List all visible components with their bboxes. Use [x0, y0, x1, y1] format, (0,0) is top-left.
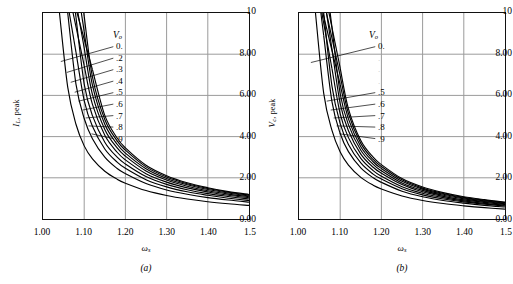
plot-area-a [42, 12, 250, 220]
panel-a: IL, peak 10 8.00 6.00 4.00 2.00 0.00 1.0… [0, 0, 256, 284]
x-axis-label-b: ωs [372, 243, 432, 253]
leader-line-b-7 [337, 126, 376, 127]
legend-value-b-7: .8 [378, 123, 385, 132]
x-tick-b-1: 1.10 [322, 228, 358, 238]
x-tick-a-3: 1.30 [149, 228, 185, 238]
legend-value-b-5: .6 [378, 100, 385, 109]
legend-title-b: Vo [369, 30, 378, 40]
legend-value-a-6: .7 [116, 112, 123, 121]
x-tick-a-1: 1.10 [66, 228, 102, 238]
y-tick-b-3: 4.00 [474, 132, 512, 142]
curve-b-7-top [326, 13, 340, 76]
figure-two-panel-resonant-converter-plots: IL, peak 10 8.00 6.00 4.00 2.00 0.00 1.0… [0, 0, 513, 284]
y-tick-b-5: 0.00 [474, 215, 512, 225]
legend-value-a-2: .3 [116, 65, 123, 74]
plot-area-b [298, 12, 506, 220]
legend-value-a-5: .6 [116, 100, 123, 109]
caption-b: (b) [372, 263, 432, 273]
legend-value-a-8: .9 [116, 135, 123, 144]
y-tick-a-3: 4.00 [218, 132, 256, 142]
plot-svg-b [299, 13, 505, 219]
x-tick-a-4: 1.40 [190, 228, 226, 238]
legend-value-b-6: .7 [378, 112, 385, 121]
legend-value-a-3: .4 [116, 77, 123, 86]
caption-a: (a) [116, 263, 176, 273]
x-tick-b-2: 1.20 [363, 228, 399, 238]
legend-value-a-0: 0. [116, 42, 123, 51]
legend-value-a-4: .5 [116, 88, 123, 97]
x-tick-a-2: 1.20 [107, 228, 143, 238]
legend-title-a: Vo [113, 30, 122, 40]
x-tick-a-0: 1.00 [24, 228, 60, 238]
y-tick-b-4: 2.00 [474, 173, 512, 183]
y-tick-b-2: 6.00 [474, 90, 512, 100]
x-axis-label-a: ωs [116, 243, 176, 253]
legend-value-a-7: .8 [116, 123, 123, 132]
legend-value-b-2: . [378, 65, 380, 74]
y-tick-a-2: 6.00 [218, 90, 256, 100]
leader-line-b-5 [331, 104, 376, 110]
y-tick-a-1: 8.00 [218, 49, 256, 59]
y-tick-a-4: 2.00 [218, 173, 256, 183]
y-tick-a-0: 10 [218, 7, 256, 17]
panel-b: Vc, peak 10 8.00 6.00 4.00 2.00 0.00 1.0… [256, 0, 512, 284]
x-tick-b-3: 1.30 [405, 228, 441, 238]
y-tick-b-1: 8.00 [474, 49, 512, 59]
plot-svg-a [43, 13, 249, 219]
legend-value-b-4: .5 [378, 88, 385, 97]
legend-value-b-3: . [378, 77, 380, 86]
curve-a-3-top [75, 13, 76, 17]
y-tick-b-0: 10 [474, 7, 512, 17]
y-tick-a-5: 0.00 [218, 215, 256, 225]
x-tick-b-0: 1.00 [280, 228, 316, 238]
legend-value-b-8: .9 [378, 135, 385, 144]
legend-value-b-0: 0. [378, 42, 385, 51]
legend-value-b-1: . [378, 54, 380, 63]
legend-value-a-1: .2 [116, 54, 123, 63]
y-axis-label-b: Vc, peak [267, 83, 277, 143]
y-axis-label-a: IL, peak [11, 83, 21, 143]
x-tick-b-4: 1.40 [446, 228, 482, 238]
x-tick-b-5: 1.5 [490, 228, 513, 238]
